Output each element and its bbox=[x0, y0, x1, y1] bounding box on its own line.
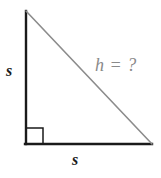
hypotenuse-line bbox=[26, 11, 152, 144]
vertical-leg-label: s bbox=[6, 63, 12, 79]
hypotenuse-label: h = ? bbox=[95, 56, 137, 74]
geometry-figure: s s h = ? bbox=[0, 0, 161, 178]
right-angle-marker-icon bbox=[27, 128, 43, 143]
right-triangle-drawing bbox=[0, 0, 161, 178]
horizontal-leg-label: s bbox=[72, 152, 78, 168]
